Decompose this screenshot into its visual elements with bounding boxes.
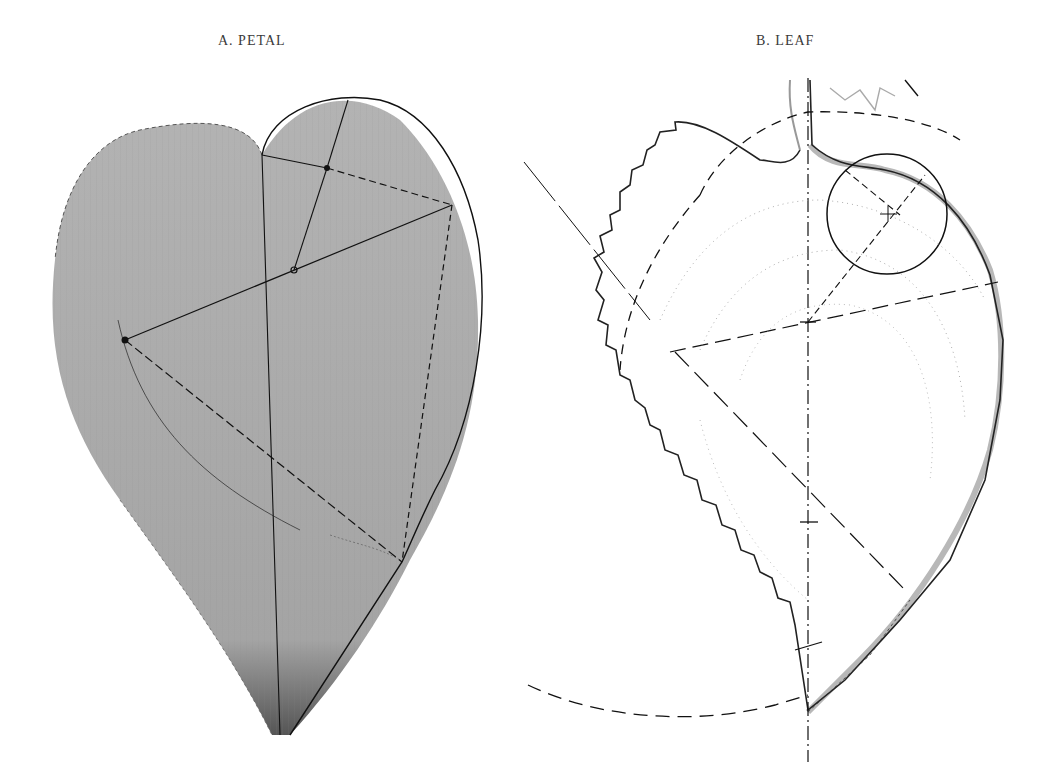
- petal-point-top: [324, 165, 330, 171]
- leaf-outline: [594, 80, 1003, 710]
- leaf-diagram: [524, 78, 1003, 762]
- petal-point-left: [122, 337, 129, 344]
- leaf-shadow-edge: [808, 145, 1001, 712]
- petal-diagram: [53, 97, 483, 735]
- figure-canvas: [0, 0, 1057, 777]
